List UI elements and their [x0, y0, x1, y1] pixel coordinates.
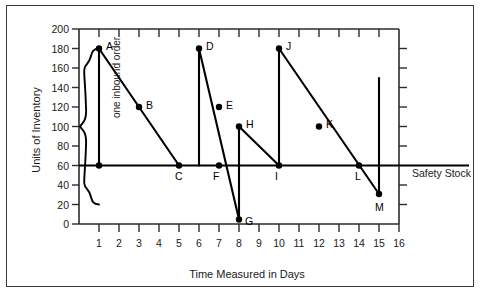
point-marker-e	[216, 104, 222, 110]
right-axis-ticks	[399, 49, 407, 205]
point-label-l: L	[355, 171, 361, 182]
point-marker-f	[216, 162, 222, 168]
x-tick-label-1: 1	[89, 238, 109, 249]
y-tick-label-200: 200	[19, 24, 69, 35]
x-tick-label-11: 11	[289, 238, 309, 249]
x-tick-label-15: 15	[369, 238, 389, 249]
y-tick-label-20: 20	[19, 200, 69, 211]
x-tick-label-6: 6	[189, 238, 209, 249]
point-marker-l	[356, 162, 362, 168]
x-axis-title: Time Measured in Days	[97, 268, 397, 280]
point-marker-m	[376, 191, 382, 197]
y-tick-label-180: 180	[19, 44, 69, 55]
x-tick-label-7: 7	[209, 238, 229, 249]
x-tick-label-12: 12	[309, 238, 329, 249]
y-tick-label-40: 40	[19, 180, 69, 191]
point-marker-h	[236, 123, 242, 129]
point-label-h: H	[246, 119, 254, 130]
y-axis-title: Units of Inventory	[30, 60, 42, 200]
y-tick-label-140: 140	[19, 83, 69, 94]
point-marker-g	[236, 216, 242, 222]
point-label-f: F	[213, 171, 219, 182]
point-marker-k	[316, 123, 322, 129]
y-tick-label-60: 60	[19, 161, 69, 172]
x-tick-label-9: 9	[249, 238, 269, 249]
point-marker-b	[136, 104, 142, 110]
x-tick-label-13: 13	[329, 238, 349, 249]
x-tick-label-3: 3	[129, 238, 149, 249]
point-label-e: E	[226, 100, 233, 111]
x-tick-label-16: 16	[389, 238, 409, 249]
point-marker-j	[276, 45, 282, 51]
point-label-j: J	[286, 41, 291, 52]
point-label-m: M	[375, 202, 384, 213]
x-tick-label-8: 8	[229, 238, 249, 249]
inbound-order-brace	[80, 49, 99, 205]
figure-frame: 200 180 160 140 120 100 80 60 40 20 0 1 …	[6, 5, 474, 287]
cycle-2-depletion	[199, 49, 239, 220]
y-tick-label-160: 160	[19, 63, 69, 74]
y-tick-label-120: 120	[19, 102, 69, 113]
x-tick-label-10: 10	[269, 238, 289, 249]
x-tick-label-5: 5	[169, 238, 189, 249]
cycle-3-depletion	[239, 127, 279, 166]
point-label-d: D	[206, 41, 214, 52]
point-marker-d	[196, 45, 202, 51]
safety-stock-label: Safety Stock	[412, 167, 471, 179]
inbound-order-annotation: one inbound order	[111, 18, 122, 138]
point-label-g: G	[245, 216, 253, 227]
point-label-b: B	[146, 100, 153, 111]
x-tick-label-2: 2	[109, 238, 129, 249]
y-tick-label-80: 80	[19, 141, 69, 152]
y-tick-label-0: 0	[19, 219, 69, 230]
chart-page: 200 180 160 140 120 100 80 60 40 20 0 1 …	[0, 0, 482, 294]
point-marker-origin-day1	[96, 162, 102, 168]
point-marker-c	[176, 162, 182, 168]
point-marker-a	[96, 45, 102, 51]
y-axis-ticks	[72, 29, 79, 224]
top-axis-ticks	[99, 29, 379, 37]
x-tick-label-4: 4	[149, 238, 169, 249]
point-label-c: C	[175, 171, 183, 182]
point-marker-i	[276, 162, 282, 168]
point-label-k: K	[326, 119, 333, 130]
x-tick-label-14: 14	[349, 238, 369, 249]
point-label-i: I	[275, 171, 278, 182]
inventory-lines	[99, 49, 379, 220]
y-tick-label-100: 100	[19, 122, 69, 133]
